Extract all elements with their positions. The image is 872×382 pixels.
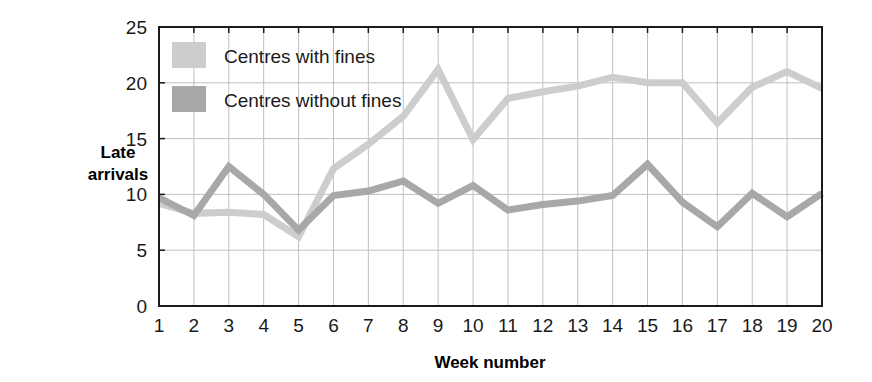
x-tick-label: 13 [567,315,588,336]
x-tick-label: 4 [258,315,269,336]
y-tick-label: 25 [126,17,147,38]
y-tick-label: 20 [126,73,147,94]
x-tick-label: 7 [363,315,374,336]
x-tick-label: 15 [637,315,658,336]
x-axis-title: Week number [434,353,546,372]
legend-label: Centres with fines [224,46,375,67]
x-tick-label: 1 [154,315,165,336]
y-tick-label: 5 [136,240,147,261]
y-tick-label: 10 [126,184,147,205]
legend-swatch [172,42,206,68]
y-axis-title-line2: arrivals [88,165,149,184]
x-tick-label: 3 [224,315,235,336]
x-tick-label: 16 [672,315,693,336]
x-tick-label: 17 [707,315,728,336]
legend-item: Centres with fines [172,42,375,68]
x-tick-label: 18 [742,315,763,336]
legend-swatch [172,86,206,112]
x-tick-label: 20 [811,315,832,336]
x-tick-label: 6 [328,315,339,336]
x-tick-label: 11 [498,315,518,336]
x-tick-label: 14 [602,315,624,336]
y-axis-title-line1: Late [101,143,136,162]
x-tick-label: 19 [777,315,798,336]
chart-container: 0510152025 12345678910111213141516171819… [0,0,872,382]
legend-label: Centres without fines [224,90,401,111]
late-arrivals-line-chart: 0510152025 12345678910111213141516171819… [0,0,872,382]
x-tick-label: 5 [293,315,304,336]
x-tick-label: 2 [189,315,200,336]
y-tick-label: 0 [136,296,147,317]
x-tick-label: 12 [532,315,553,336]
x-tick-label: 10 [462,315,483,336]
x-tick-label: 8 [398,315,409,336]
x-tick-label: 9 [433,315,444,336]
